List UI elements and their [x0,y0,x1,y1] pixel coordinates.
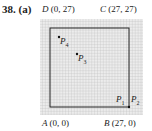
label-p2: P2 [131,94,140,106]
grid-figure [0,0,152,131]
label-p3: P3 [78,53,87,65]
point-p1-p2 [128,106,130,108]
label-p4: P4 [60,36,69,48]
label-p1: P1 [116,94,125,106]
